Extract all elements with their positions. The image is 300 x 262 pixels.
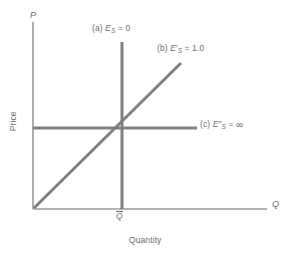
y-axis-letter: P — [30, 11, 36, 20]
x-tick-label-text: Q — [116, 211, 123, 221]
curve-subscript-b: S — [178, 47, 182, 54]
curve-equals-a: = — [118, 23, 123, 33]
curve-label-a: (a) ES = 0 — [92, 24, 130, 34]
curve-label-b: (b) E′S = 1.0 — [157, 44, 204, 54]
curve-subscript-a: S — [111, 27, 115, 34]
curve-equals-b: = — [185, 43, 190, 53]
curve-value-c: ∞ — [236, 119, 243, 130]
curve-tag-c: (c) — [200, 119, 210, 129]
supply-elasticity-figure: P Q Price Quantity Q (a) ES = 0 (b) E′S … — [0, 0, 300, 262]
curve-tag-b: (b) — [157, 43, 168, 53]
x-tick-label-qbar: Q — [116, 212, 123, 221]
plot-canvas — [0, 0, 300, 262]
curve-value-b: 1.0 — [192, 43, 204, 53]
curve-value-a: 0 — [125, 23, 130, 33]
overbar-decoration — [116, 211, 123, 212]
curve-equals-c: = — [228, 119, 233, 129]
supply-curve-b-unit-elastic — [34, 63, 181, 208]
curve-subscript-c: S — [222, 123, 226, 130]
x-axis-title: Quantity — [129, 236, 161, 245]
curve-label-c: (c) E″S = ∞ — [200, 120, 243, 130]
x-axis-letter: Q — [272, 200, 279, 209]
y-axis-title: Price — [9, 99, 18, 143]
curve-tag-a: (a) — [92, 23, 103, 33]
